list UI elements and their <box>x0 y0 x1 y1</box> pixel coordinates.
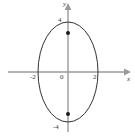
y-tick-label-4: 4 <box>58 17 62 24</box>
x-tick-label-2: 2 <box>93 74 97 81</box>
origin-label: 0 <box>60 74 64 81</box>
y-tick-label-negative-4: -4 <box>53 124 59 131</box>
ellipse-graph-figure: y x 4 -4 0 -2 2 <box>0 0 135 139</box>
plot-canvas <box>0 0 135 139</box>
focus-point-upper <box>66 31 70 35</box>
focus-point-lower <box>66 112 70 116</box>
x-axis-label: x <box>127 76 130 83</box>
x-tick-label-negative-2: -2 <box>30 74 36 81</box>
y-axis-label: y <box>63 1 66 8</box>
